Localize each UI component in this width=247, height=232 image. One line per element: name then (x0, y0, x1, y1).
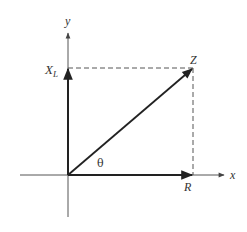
y-axis-label: y (64, 14, 71, 28)
xl-label: XL (44, 62, 58, 79)
r-label: R (183, 180, 192, 194)
vector-z (68, 69, 192, 175)
impedance-diagram: y x XL Z R θ (0, 0, 247, 232)
x-axis-label: x (229, 168, 236, 182)
angle-theta-label: θ (97, 157, 104, 170)
z-label: Z (190, 53, 197, 67)
